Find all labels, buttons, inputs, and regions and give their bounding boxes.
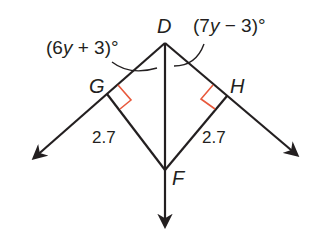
right-angle-marker-h: [201, 85, 215, 109]
right-angle-marker-g: [118, 85, 131, 109]
angle-right-pre: (7: [193, 15, 210, 36]
angle-left-post: + 3)°: [72, 37, 118, 58]
length-label-gf: 2.7: [92, 129, 116, 146]
length-label-hf: 2.7: [202, 129, 226, 146]
angle-label-right: (7y − 3)°: [193, 16, 266, 35]
angle-right-post: − 3)°: [219, 15, 265, 36]
angle-left-var: y: [63, 37, 73, 58]
point-label-f: F: [172, 168, 184, 188]
point-label-d: D: [157, 16, 171, 36]
ray-dh: [165, 43, 297, 155]
point-label-g: G: [89, 76, 105, 96]
segment-gf: [107, 94, 165, 170]
angle-label-left: (6y + 3)°: [46, 38, 119, 57]
angle-right-var: y: [210, 15, 220, 36]
geometry-diagram: D G H F (6y + 3)° (7y − 3)° 2.7 2.7: [0, 0, 317, 238]
point-label-h: H: [230, 76, 244, 96]
angle-left-pre: (6: [46, 37, 63, 58]
